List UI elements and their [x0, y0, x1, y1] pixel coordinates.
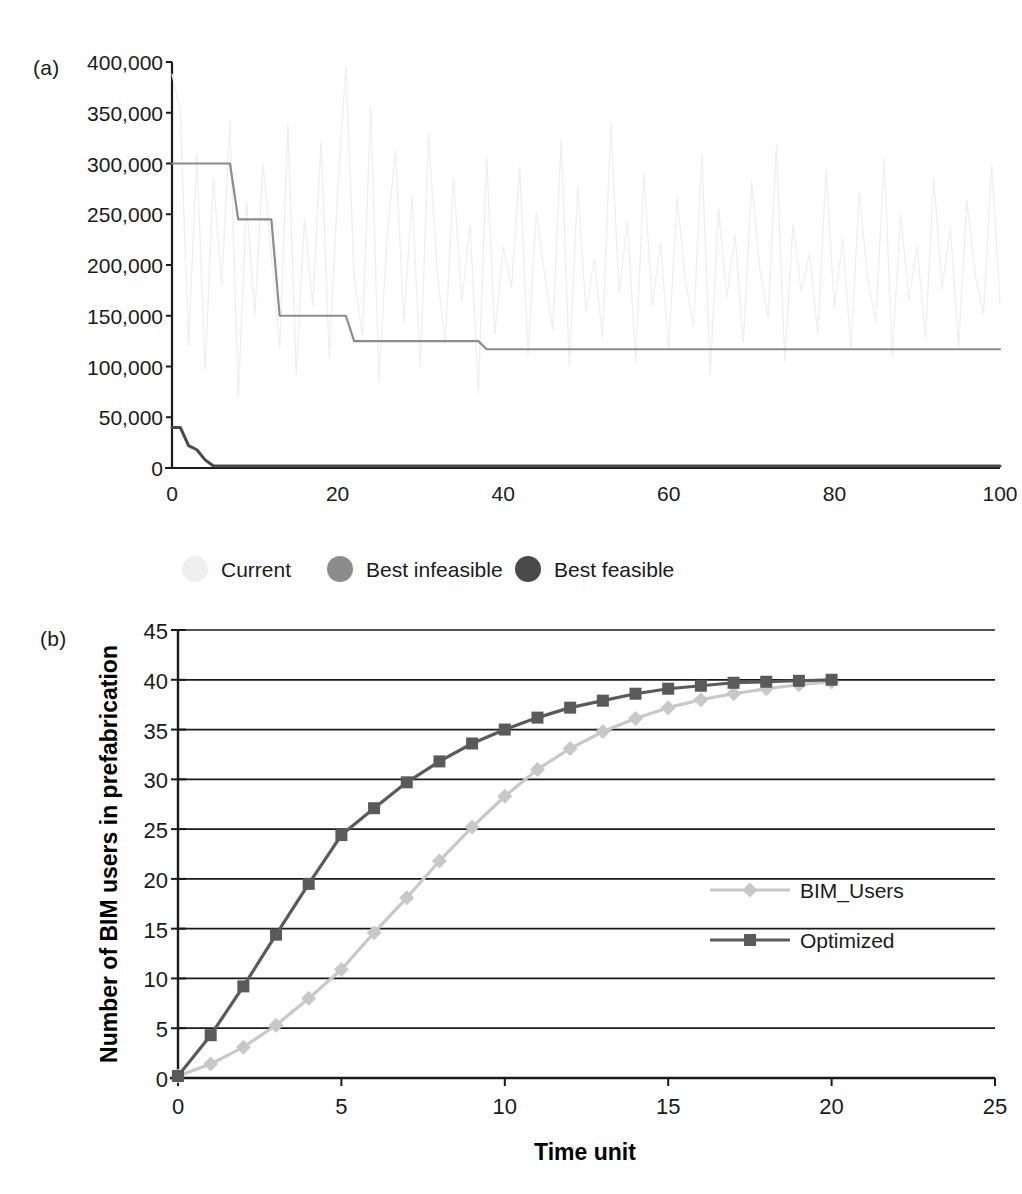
panel-b-legend-label-0: BIM_Users [800, 879, 904, 903]
panel-b-marker-optimized [760, 676, 772, 688]
panel-b-y-axis-title: Number of BIM users in prefabrication [96, 645, 122, 1063]
panel-b-marker-optimized [237, 980, 249, 992]
panel-b-marker-optimized [662, 683, 674, 695]
panel-a-x-tick: 40 [492, 482, 515, 505]
panel-b-x-tick-labels: 0510152025 [172, 1078, 1007, 1119]
panel-b-marker-bim-users [595, 724, 610, 739]
panel-a-y-tick: 350,000 [87, 102, 163, 125]
panel-a-x-tick: 60 [657, 482, 680, 505]
panel-b-x-axis-title: Time unit [534, 1139, 636, 1165]
panel-b-y-tick-labels: 051015202530354045 [144, 619, 186, 1092]
panel-b-marker-optimized [368, 802, 380, 814]
panel-b-y-tick: 15 [144, 918, 168, 943]
panel-b-marker-optimized [728, 677, 740, 689]
panel-b-chart: 051015202530354045 0510152025 BIM_UsersO… [96, 619, 1007, 1165]
panel-b-legend-marker-1 [744, 934, 756, 946]
panel-b-y-tick: 45 [144, 619, 168, 644]
panel-b-series-line-optimized [178, 680, 832, 1076]
figure-container: (a) (b) 050,000100,000150,000200,000250,… [0, 0, 1022, 1194]
panel-b-marker-optimized [172, 1070, 184, 1082]
panel-b-marker-optimized [270, 929, 282, 941]
panel-b-y-tick: 0 [156, 1067, 168, 1092]
panel-a-x-tick: 0 [166, 482, 178, 505]
panel-b-legend: BIM_UsersOptimized [710, 879, 904, 952]
panel-b-x-tick: 20 [819, 1094, 843, 1119]
panel-b-y-tick: 10 [144, 967, 168, 992]
panel-b-marker-optimized [630, 688, 642, 700]
panel-b-x-tick: 10 [493, 1094, 517, 1119]
panel-b-marker-bim-users [693, 692, 708, 707]
panel-a-legend-label-1: Best infeasible [366, 558, 503, 581]
panel-b-marker-optimized [499, 724, 511, 736]
panel-b-marker-bim-users [661, 700, 676, 715]
panel-b-gridlines [178, 630, 995, 1028]
panel-a-y-tick: 150,000 [87, 305, 163, 328]
panel-b-x-tick: 25 [983, 1094, 1007, 1119]
panel-a-legend-marker-1 [327, 556, 353, 582]
panel-b-y-tick: 20 [144, 868, 168, 893]
panel-b-marker-optimized [826, 674, 838, 686]
panel-b-y-tick: 40 [144, 669, 168, 694]
panel-a-y-tick: 300,000 [87, 153, 163, 176]
panel-b-legend-marker-0 [743, 883, 758, 898]
panel-a-y-tick: 0 [151, 457, 163, 480]
panel-b-x-tick: 15 [656, 1094, 680, 1119]
panel-b-marker-optimized [401, 776, 413, 788]
panel-b-y-tick: 35 [144, 719, 168, 744]
panel-b-x-tick: 0 [172, 1094, 184, 1119]
panel-a-x-tick: 80 [823, 482, 846, 505]
panel-b-y-tick: 30 [144, 768, 168, 793]
panel-b-marker-optimized [695, 680, 707, 692]
panel-a-y-tick: 250,000 [87, 203, 163, 226]
panel-a-y-tick: 200,000 [87, 254, 163, 277]
panel-a-y-tick-labels: 050,000100,000150,000200,000250,000300,0… [87, 51, 172, 480]
panel-b-marker-optimized [793, 675, 805, 687]
panel-b-marker-optimized [433, 755, 445, 767]
panel-b-marker-optimized [531, 712, 543, 724]
panel-a-label: (a) [33, 56, 60, 80]
panel-a-y-tick: 50,000 [99, 406, 163, 429]
panel-b-marker-optimized [564, 702, 576, 714]
panel-a-y-tick: 100,000 [87, 356, 163, 379]
panel-a-legend: CurrentBest infeasibleBest feasible [182, 556, 674, 582]
panel-a-chart: 050,000100,000150,000200,000250,000300,0… [87, 51, 1017, 505]
panel-a-series-best-feasible [172, 427, 1000, 466]
panel-a-x-tick: 20 [326, 482, 349, 505]
panel-b-marker-bim-users [628, 711, 643, 726]
panel-b-y-tick: 5 [156, 1017, 168, 1042]
panel-b-legend-label-1: Optimized [800, 929, 895, 952]
panel-b-marker-optimized [205, 1029, 217, 1041]
panel-a-legend-marker-0 [182, 556, 208, 582]
panel-a-x-tick: 100 [982, 482, 1017, 505]
panel-a-legend-marker-2 [515, 556, 541, 582]
panel-a-legend-label-2: Best feasible [554, 558, 674, 581]
figure-svg: 050,000100,000150,000200,000250,000300,0… [0, 0, 1022, 1194]
panel-b-x-tick: 5 [335, 1094, 347, 1119]
panel-a-y-tick: 400,000 [87, 51, 163, 74]
panel-a-x-tick-labels: 020406080100 [166, 482, 1017, 505]
panel-b-marker-optimized [466, 737, 478, 749]
panel-b-marker-optimized [303, 878, 315, 890]
panel-a-series-current [172, 66, 1000, 397]
panel-b-label: (b) [40, 627, 67, 651]
panel-b-marker-optimized [335, 829, 347, 841]
panel-b-y-tick: 25 [144, 818, 168, 843]
panel-b-marker-bim-users [203, 1057, 218, 1072]
panel-b-marker-optimized [597, 695, 609, 707]
panel-a-series-lines [172, 66, 1000, 466]
panel-a-legend-label-0: Current [221, 558, 291, 581]
